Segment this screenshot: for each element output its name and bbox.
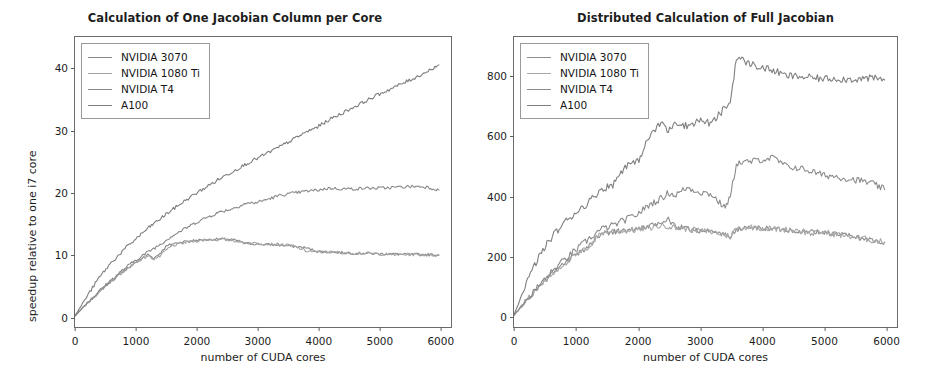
legend-line-swatch bbox=[88, 105, 112, 106]
y-tick-label: 200 bbox=[487, 251, 514, 263]
legend-item-label: NVIDIA T4 bbox=[121, 83, 174, 95]
x-tick-label: 2000 bbox=[184, 327, 211, 347]
y-tick-label: 800 bbox=[487, 70, 514, 82]
legend-line-swatch bbox=[88, 73, 112, 74]
legend-item-label: NVIDIA 1080 Ti bbox=[560, 67, 639, 79]
x-tick-label: 0 bbox=[511, 327, 518, 347]
legend-item-label: A100 bbox=[560, 99, 587, 111]
legend-item[interactable]: NVIDIA T4 bbox=[88, 81, 200, 97]
x-tick-label: 3000 bbox=[245, 327, 272, 347]
legend-item[interactable]: NVIDIA 3070 bbox=[88, 49, 200, 65]
page-title-right: Distributed Calculation of Full Jacobian bbox=[470, 11, 941, 25]
legend-line-swatch bbox=[527, 57, 551, 58]
legend-item[interactable]: A100 bbox=[88, 97, 200, 113]
y-tick-label: 10 bbox=[55, 249, 75, 261]
legend-line-swatch bbox=[88, 89, 112, 90]
x-tick-label: 6000 bbox=[873, 327, 900, 347]
x-tick-label: 3000 bbox=[687, 327, 714, 347]
figure-canvas: Calculation of One Jacobian Column per C… bbox=[0, 0, 941, 381]
x-tick-label: 5000 bbox=[811, 327, 838, 347]
legend-item-label: NVIDIA 3070 bbox=[560, 51, 627, 63]
legend-item[interactable]: NVIDIA T4 bbox=[527, 81, 639, 97]
y-tick-label: 30 bbox=[55, 125, 75, 137]
legend-item-label: A100 bbox=[121, 99, 148, 111]
legend-item[interactable]: NVIDIA 1080 Ti bbox=[527, 65, 639, 81]
plot-area-right: 0200400600800 0100020003000400050006000 … bbox=[513, 36, 898, 328]
series-line bbox=[75, 185, 439, 316]
legend-line-swatch bbox=[527, 105, 551, 106]
chart-panel-left: Calculation of One Jacobian Column per C… bbox=[0, 0, 470, 381]
plot-area-left: 010203040 0100020003000400050006000 NVID… bbox=[74, 36, 452, 328]
legend-left[interactable]: NVIDIA 3070NVIDIA 1080 TiNVIDIA T4A100 bbox=[81, 43, 210, 119]
x-tick-label: 1000 bbox=[123, 327, 150, 347]
legend-item[interactable]: A100 bbox=[527, 97, 639, 113]
x-axis-label: number of CUDA cores bbox=[75, 351, 451, 364]
y-tick-label: 20 bbox=[55, 187, 75, 199]
series-line bbox=[75, 239, 439, 316]
page-title: Calculation of One Jacobian Column per C… bbox=[0, 11, 470, 25]
x-tick-label: 4000 bbox=[305, 327, 332, 347]
legend-line-swatch bbox=[88, 57, 112, 58]
x-tick-label: 5000 bbox=[366, 327, 393, 347]
legend-item[interactable]: NVIDIA 1080 Ti bbox=[88, 65, 200, 81]
y-tick-label: 400 bbox=[487, 191, 514, 203]
legend-item-label: NVIDIA 1080 Ti bbox=[121, 67, 200, 79]
y-tick-label: 0 bbox=[61, 312, 75, 324]
y-tick-label: 40 bbox=[55, 62, 75, 74]
x-tick-label: 4000 bbox=[749, 327, 776, 347]
y-tick-label: 0 bbox=[500, 311, 514, 323]
legend-line-swatch bbox=[527, 73, 551, 74]
x-axis-label-right: number of CUDA cores bbox=[514, 351, 897, 364]
x-tick-label: 2000 bbox=[625, 327, 652, 347]
legend-item-label: NVIDIA 3070 bbox=[121, 51, 188, 63]
x-tick-label: 1000 bbox=[563, 327, 590, 347]
y-tick-label: 600 bbox=[487, 130, 514, 142]
x-tick-label: 6000 bbox=[427, 327, 454, 347]
legend-right[interactable]: NVIDIA 3070NVIDIA 1080 TiNVIDIA T4A100 bbox=[520, 43, 649, 119]
legend-item[interactable]: NVIDIA 3070 bbox=[527, 49, 639, 65]
x-tick-label: 0 bbox=[72, 327, 79, 347]
legend-item-label: NVIDIA T4 bbox=[560, 83, 613, 95]
legend-line-swatch bbox=[527, 89, 551, 90]
y-axis-label: speedup relative to one i7 core bbox=[26, 150, 39, 322]
series-line bbox=[514, 223, 885, 315]
chart-panel-right: Distributed Calculation of Full Jacobian… bbox=[470, 0, 941, 381]
series-line bbox=[75, 238, 439, 316]
